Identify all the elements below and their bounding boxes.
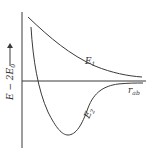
y-axis-label-group: E − 2E0 [5, 43, 16, 101]
curve-e1 [28, 17, 142, 77]
y-axis-label: E − 2E0 [5, 64, 16, 101]
curve1-label: E1 [84, 56, 95, 67]
arrow-up-icon [7, 43, 13, 48]
x-axis-label: rab [128, 85, 140, 96]
energy-diagram: E1 E2 rab E − 2E0 [0, 0, 154, 155]
